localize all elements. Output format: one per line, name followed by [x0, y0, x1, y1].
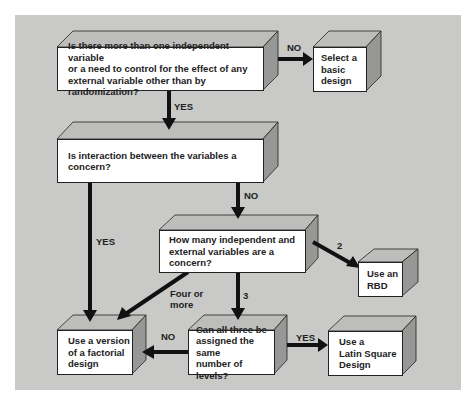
node-text: Use a version of a factorial design — [68, 335, 130, 370]
edge-label-no: NO — [244, 190, 258, 201]
node-text: Is interaction between the variables a c… — [68, 150, 263, 173]
node-text: Use a Latin Square Design — [339, 336, 397, 371]
node-text: How many independent and external variab… — [169, 234, 305, 269]
node-text: Use an RBD — [367, 268, 398, 291]
node-text: Can all three be assigned the same numbe… — [196, 324, 274, 382]
edge-label-no: NO — [161, 331, 175, 342]
edge-label-two: 2 — [337, 240, 342, 251]
edge-label-yes: YES — [174, 101, 193, 112]
edge-label-four-or-more: Four or more — [170, 288, 203, 310]
node-text: Select a basic design — [321, 52, 357, 87]
edge-label-yes: YES — [296, 332, 315, 343]
arrowhead-no-basic — [303, 52, 313, 66]
edge-label-no: NO — [287, 42, 301, 53]
edge-label-yes: YES — [96, 236, 115, 247]
node-text: Is there more than one independent varia… — [68, 40, 263, 98]
edge-label-three: 3 — [243, 290, 248, 301]
